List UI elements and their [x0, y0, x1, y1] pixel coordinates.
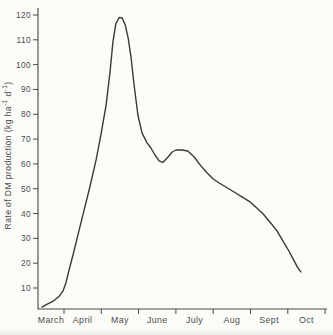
- plot-area: 102030405060708090100110120MarchAprilMay…: [0, 0, 333, 335]
- x-tick-label: May: [111, 315, 129, 325]
- x-tick-label: Aug: [223, 315, 240, 325]
- y-tick-label: 90: [21, 84, 31, 94]
- y-tick-label: 30: [21, 233, 31, 243]
- dm-production-curve: [42, 18, 301, 308]
- dm-production-chart: Rate of DM production (kg ha-1 d-1) 1020…: [0, 0, 333, 335]
- y-axis-label-text: Rate of DM production (kg ha: [3, 106, 13, 229]
- x-tick-label: March: [38, 315, 64, 325]
- y-axis-label: Rate of DM production (kg ha-1 d-1): [3, 46, 16, 266]
- x-tick-label: April: [73, 315, 93, 325]
- y-axis-label-text-end: ): [3, 82, 13, 85]
- axes-lines: [38, 8, 327, 309]
- y-tick-label: 40: [21, 209, 31, 219]
- y-tick-label: 10: [21, 283, 31, 293]
- y-tick-label: 50: [21, 184, 31, 194]
- y-tick-label: 80: [21, 109, 31, 119]
- y-tick-label: 20: [21, 258, 31, 268]
- y-tick-label: 120: [16, 10, 31, 20]
- y-tick-label: 60: [21, 159, 31, 169]
- y-tick-label: 100: [16, 60, 31, 70]
- x-tick-label: June: [147, 315, 168, 325]
- y-tick-label: 110: [17, 35, 31, 45]
- x-tick-label: July: [186, 315, 203, 325]
- y-axis-label-text-mid: d: [3, 91, 13, 99]
- x-tick-label: Oct: [299, 315, 314, 325]
- x-tick-label: Sept: [259, 315, 279, 325]
- y-axis-label-sup-d: -1: [1, 85, 8, 92]
- y-tick-label: 70: [21, 134, 31, 144]
- y-axis-label-sup-ha: -1: [1, 99, 8, 106]
